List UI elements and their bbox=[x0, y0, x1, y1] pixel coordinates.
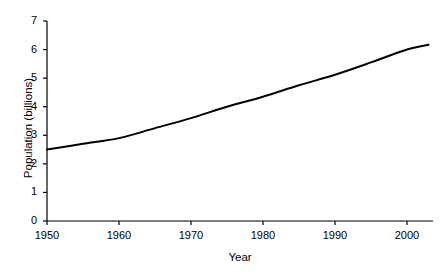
y-tick-label: 0 bbox=[23, 214, 37, 226]
x-tick-label: 1970 bbox=[171, 229, 211, 241]
x-tick-label: 2000 bbox=[387, 229, 427, 241]
x-tick-label: 1980 bbox=[243, 229, 283, 241]
x-axis-ticks bbox=[47, 221, 407, 225]
x-tick-label: 1990 bbox=[315, 229, 355, 241]
population-line-chart: 01234567 195019601970198019902000 Popula… bbox=[0, 0, 446, 274]
x-tick-label: 1960 bbox=[99, 229, 139, 241]
y-axis-title: Population (billions) bbox=[22, 48, 34, 208]
series-line-world-population bbox=[47, 45, 429, 150]
x-axis-title: Year bbox=[47, 251, 433, 263]
y-tick-label: 7 bbox=[23, 14, 37, 26]
axis-lines bbox=[47, 21, 433, 221]
x-tick-label: 1950 bbox=[27, 229, 67, 241]
